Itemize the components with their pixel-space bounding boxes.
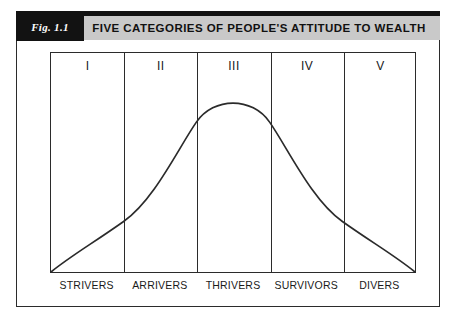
category-label-thrivers: THRIVERS: [206, 279, 261, 291]
figure-title: FIVE CATEGORIES OF PEOPLE'S ATTITUDE TO …: [30, 22, 425, 34]
attitude-curve: [51, 53, 415, 272]
category-label-arrivers: ARRIVERS: [132, 279, 187, 291]
category-label-survivors: SURVIVORS: [274, 279, 337, 291]
figure-number-label: Fig. 1.1: [31, 21, 69, 33]
figure-container: FIVE CATEGORIES OF PEOPLE'S ATTITUDE TO …: [0, 0, 458, 323]
category-label-strivers: STRIVERS: [60, 279, 114, 291]
category-label-divers: DIVERS: [359, 279, 399, 291]
figure-number-tab: Fig. 1.1: [16, 12, 84, 41]
chart-plot-area: I II III IV V: [50, 52, 416, 273]
